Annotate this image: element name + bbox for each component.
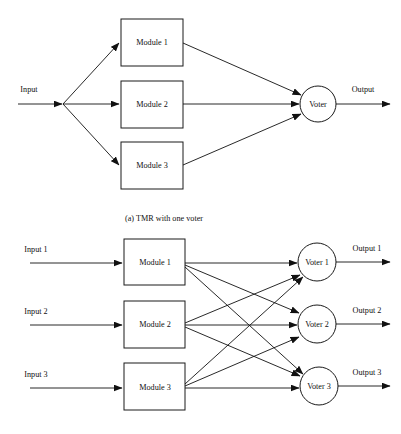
panel-b-module-1-label: Module 1 <box>139 258 171 267</box>
panel-b-input-2-label: Input 2 <box>24 307 47 316</box>
panel-a-edge-module3-voter <box>183 114 301 165</box>
panel-a-edge-module1-voter <box>183 43 301 95</box>
panel-b-edge-module3-voter1 <box>185 277 303 384</box>
panel-a-edge-input-module3 <box>63 104 119 165</box>
panel-a-edge-input-module1 <box>63 43 119 104</box>
tmr-diagram-canvas: Input Module 1 Module 2 Module 3 Voter O… <box>0 0 401 434</box>
panel-a-voter-label: Voter <box>309 100 327 109</box>
panel-b-voter-1-label: Voter 1 <box>305 258 329 267</box>
panel-b-input-1-label: Input 1 <box>24 245 47 254</box>
panel-b-edge-module1-voter3 <box>185 267 303 374</box>
panel-b-voter-2-label: Voter 2 <box>305 320 329 329</box>
panel-a-caption: (a) TMR with one voter <box>125 214 203 223</box>
panel-a-output-label: Output <box>352 85 375 94</box>
panel-a-module-2-label: Module 2 <box>136 100 168 109</box>
panel-b-module-2-label: Module 2 <box>139 320 171 329</box>
panel-b-group: Input 1 Input 2 Input 3 Module 1 Module … <box>24 239 390 410</box>
panel-b-edge-module3-voter2 <box>185 337 299 386</box>
panel-b-output-2-label: Output 2 <box>353 306 382 315</box>
panel-a-module-1-label: Module 1 <box>136 38 168 47</box>
panel-b-voter-3-label: Voter 3 <box>307 382 331 391</box>
panel-b-input-3-label: Input 3 <box>24 370 47 379</box>
panel-a-module-3-label: Module 3 <box>136 161 168 170</box>
figure-root: Input Module 1 Module 2 Module 3 Voter O… <box>0 0 401 434</box>
panel-a-input-label: Input <box>20 85 38 94</box>
panel-b-module-3-label: Module 3 <box>139 383 171 392</box>
panel-b-output-1-label: Output 1 <box>353 244 382 253</box>
panel-b-edge-module1-voter2 <box>185 265 299 313</box>
panel-b-output-3-label: Output 3 <box>353 368 382 377</box>
panel-a-group: Input Module 1 Module 2 Module 3 Voter O… <box>18 19 390 223</box>
